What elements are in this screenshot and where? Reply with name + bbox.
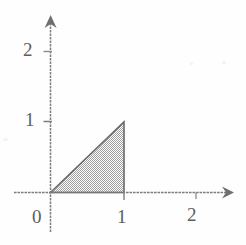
scan-speck — [222, 61, 226, 64]
y-axis-arrow-icon — [45, 15, 57, 28]
x-axis-arrow-icon — [222, 187, 234, 199]
y-tick-label-2: 2 — [23, 40, 33, 59]
shaded-region — [51, 122, 125, 193]
x-tick-label-0: 0 — [32, 207, 42, 226]
graph-figure: 2 1 0 1 2 — [0, 0, 246, 245]
y-tick-label-1: 1 — [25, 110, 35, 129]
scan-speck — [3, 138, 8, 141]
x-tick-label-1: 1 — [117, 207, 127, 226]
scan-speck — [190, 62, 193, 65]
y-axis — [44, 15, 57, 232]
x-tick-label-2: 2 — [187, 205, 197, 224]
